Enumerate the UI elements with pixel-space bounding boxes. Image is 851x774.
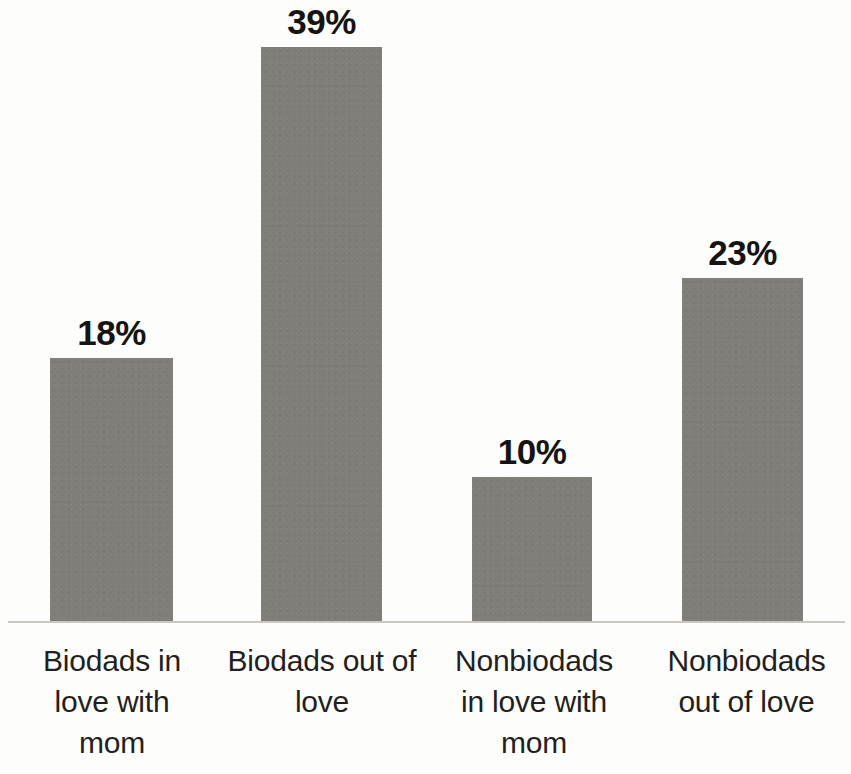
category-label-3-line-2: in love with — [428, 681, 640, 722]
category-label-2-line-2: love — [216, 681, 428, 722]
category-label-2: Biodads out of love — [216, 640, 428, 722]
category-label-1: Biodads in love with mom — [12, 640, 212, 763]
category-label-4: Nonbiodads out of love — [644, 640, 849, 722]
category-label-3-line-1: Nonbiodads — [428, 640, 640, 681]
bar-nonbiodads-in-love-with-mom — [472, 477, 592, 622]
data-label-bar-3: 10% — [472, 434, 592, 469]
data-label-bar-2: 39% — [261, 4, 382, 39]
bar-nonbiodads-out-of-love — [682, 278, 803, 622]
category-label-1-line-3: mom — [12, 722, 212, 763]
category-label-1-line-2: love with — [12, 681, 212, 722]
category-label-1-line-1: Biodads in — [12, 640, 212, 681]
plot-area: 18% 39% 10% 23% — [0, 0, 851, 622]
bar-biodads-in-love-with-mom — [50, 358, 173, 622]
category-label-4-line-1: Nonbiodads — [644, 640, 849, 681]
data-label-bar-4: 23% — [682, 235, 803, 270]
bar-chart: 18% 39% 10% 23% Biodads in love with mom… — [0, 0, 851, 774]
category-label-2-line-1: Biodads out of — [216, 640, 428, 681]
bar-biodads-out-of-love — [261, 47, 382, 622]
category-label-3-line-3: mom — [428, 722, 640, 763]
data-label-bar-1: 18% — [50, 315, 173, 350]
category-label-3: Nonbiodads in love with mom — [428, 640, 640, 763]
x-axis-line — [8, 621, 845, 623]
category-axis: Biodads in love with mom Biodads out of … — [0, 640, 851, 774]
category-label-4-line-2: out of love — [644, 681, 849, 722]
